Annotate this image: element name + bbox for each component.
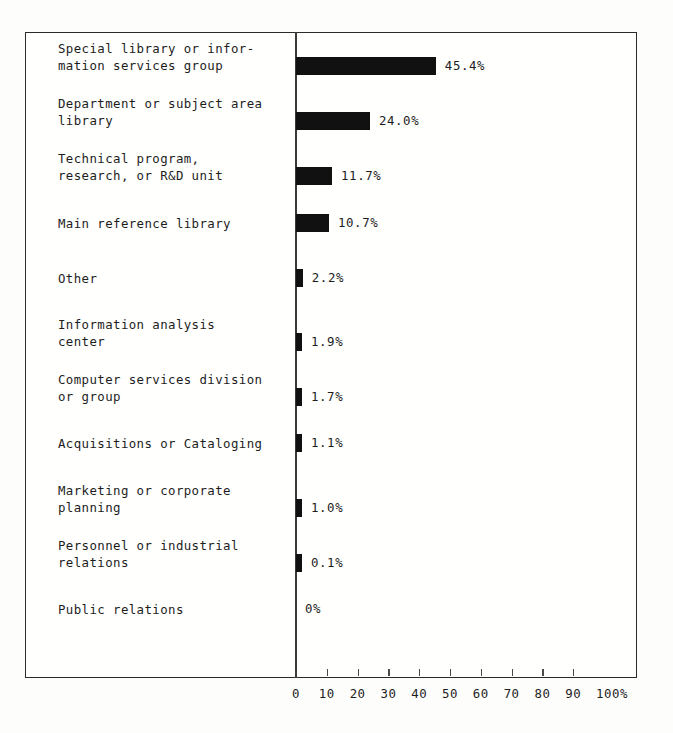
bar-value-label: 1.7% — [311, 388, 343, 406]
chart-page: Special library or infor- mation service… — [0, 0, 673, 733]
x-axis-tick-label: 50 — [442, 686, 458, 701]
x-axis-tick-label: 40 — [411, 686, 427, 701]
bar — [296, 499, 302, 517]
category-label: Technical program, research, or R&D unit — [58, 150, 290, 184]
bar-row: Technical program, research, or R&D unit… — [0, 150, 673, 205]
bar-row: Information analysis center1.9% — [0, 316, 673, 371]
x-axis-tick-label: 60 — [473, 686, 489, 701]
bar — [296, 434, 302, 452]
bar-value-label: 10.7% — [338, 214, 378, 232]
category-label: Marketing or corporate planning — [58, 482, 290, 516]
bar-row: Department or subject area library24.0% — [0, 95, 673, 150]
x-axis-tick-label: 100% — [596, 686, 628, 701]
bar-value-label: 0% — [305, 600, 321, 618]
x-axis-tick-label: 80 — [534, 686, 550, 701]
x-axis-tick-label: 30 — [380, 686, 396, 701]
bar-value-label: 1.1% — [311, 434, 343, 452]
bar — [296, 214, 329, 232]
bar — [296, 388, 302, 406]
bar-row: Marketing or corporate planning1.0% — [0, 482, 673, 537]
bar — [296, 333, 302, 351]
x-axis-tick-label: 10 — [319, 686, 335, 701]
category-label: Main reference library — [58, 215, 290, 232]
bar-row: Computer services division or group1.7% — [0, 371, 673, 426]
bar-value-label: 24.0% — [379, 112, 419, 130]
bar-row: Main reference library10.7% — [0, 206, 673, 261]
bar-value-label: 11.7% — [341, 167, 381, 185]
bar-value-label: 2.2% — [312, 269, 344, 287]
category-label: Acquisitions or Cataloging — [58, 435, 290, 452]
bar — [296, 167, 332, 185]
bar-row: Public relations0% — [0, 592, 673, 647]
x-axis-tick-label: 90 — [565, 686, 581, 701]
category-label: Public relations — [58, 601, 290, 618]
bar-row: Personnel or industrial relations0.1% — [0, 537, 673, 592]
category-label: Special library or infor- mation service… — [58, 40, 290, 74]
bar — [296, 112, 370, 130]
bar-value-label: 1.9% — [311, 333, 343, 351]
category-label: Other — [58, 270, 290, 287]
x-axis-tick-label: 70 — [504, 686, 520, 701]
bar-value-label: 1.0% — [311, 499, 343, 517]
bar — [296, 57, 436, 75]
category-label: Personnel or industrial relations — [58, 537, 290, 571]
bar-value-label: 0.1% — [311, 554, 343, 572]
x-axis-tick-label: 20 — [350, 686, 366, 701]
bar-row: Special library or infor- mation service… — [0, 40, 673, 95]
category-label: Information analysis center — [58, 316, 290, 350]
category-label: Computer services division or group — [58, 371, 290, 405]
category-label: Department or subject area library — [58, 95, 290, 129]
bar-value-label: 45.4% — [445, 57, 485, 75]
bar — [296, 554, 302, 572]
bar-row: Acquisitions or Cataloging1.1% — [0, 426, 673, 481]
bar-row: Other2.2% — [0, 261, 673, 316]
bar — [296, 269, 303, 287]
x-axis-tick-label: 0 — [292, 686, 300, 701]
